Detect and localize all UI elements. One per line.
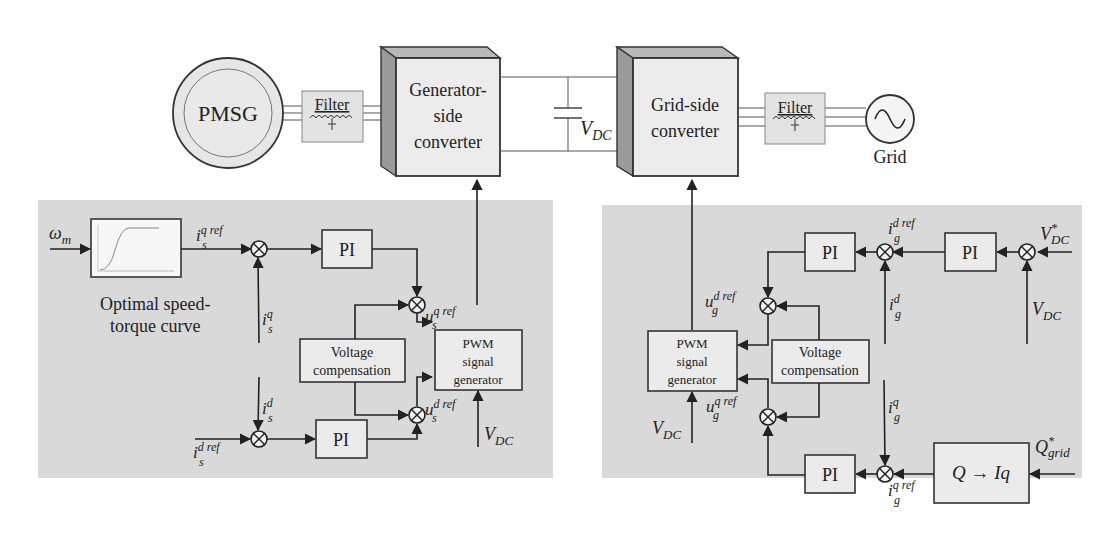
vc-grid-line2: compensation	[781, 363, 859, 378]
vc-gen-line2: compensation	[313, 363, 391, 378]
q-to-iq-block: Q → Iq	[934, 443, 1029, 503]
pi-q-label: PI	[339, 240, 355, 260]
isd-ref-sub: s	[199, 455, 204, 469]
gen-converter-label-3: converter	[414, 132, 482, 152]
summing-junction-isq	[251, 241, 267, 257]
gen-converter-label-2: side	[434, 106, 463, 126]
vc-gen-line1: Voltage	[331, 345, 374, 360]
pwm-generator-grid: PWM signal generator	[648, 331, 737, 391]
pi-controller-igq: PI	[805, 455, 855, 493]
grid-source: Grid	[866, 95, 914, 167]
pi-controller-isq: PI	[322, 230, 372, 268]
usd-ref-sub: s	[432, 411, 437, 425]
q-block-label: Q → Iq	[952, 462, 1011, 483]
pwm-gen-line3: generator	[453, 372, 503, 387]
summing-junction-usd	[409, 407, 425, 423]
pi-igq-label: PI	[822, 465, 838, 485]
igq-ref-sub: g	[894, 493, 900, 507]
pwm-generator-gen: PWM signal generator	[435, 330, 522, 390]
summing-junction-usq	[409, 297, 425, 313]
grid-label: Grid	[874, 147, 907, 167]
igd-ref-sub: g	[894, 231, 900, 245]
grid-side-converter: Grid-side converter	[617, 47, 738, 176]
pwm-gen-line2: signal	[462, 354, 493, 369]
ugd-ref-sub: g	[712, 303, 718, 317]
voltage-compensation-gen: Voltage compensation	[300, 339, 405, 382]
pi-vdc-label: PI	[962, 243, 978, 263]
pwm-grid-line1: PWM	[676, 336, 708, 351]
igq-sub: g	[894, 410, 900, 424]
voltage-compensation-grid: Voltage compensation	[772, 340, 869, 383]
pwm-grid-line2: signal	[676, 354, 707, 369]
summing-junction-igq	[877, 466, 893, 482]
gen-converter-label-1: Generator-	[409, 80, 487, 100]
pi-controller-igd: PI	[805, 233, 855, 271]
summing-junction-isd	[251, 431, 267, 447]
isq-ref-sub: s	[202, 238, 207, 252]
grid-converter-label-2: converter	[651, 121, 719, 141]
filter-left: Filter	[302, 91, 363, 142]
curve-caption-2: torque curve	[110, 316, 200, 336]
isq-sub: s	[268, 322, 273, 336]
pwm-gen-line1: PWM	[462, 336, 494, 351]
dc-link-capacitor: VDC	[500, 77, 620, 151]
summing-junction-vdc	[1019, 244, 1035, 260]
ugq-ref-sub: g	[713, 408, 719, 422]
igd-sub: g	[895, 307, 901, 321]
pi-igd-label: PI	[822, 243, 838, 263]
generator-side-converter: Generator- side converter	[381, 47, 500, 176]
filter-left-label: Filter	[315, 96, 350, 113]
igq-ref-label: iq ref	[888, 478, 916, 500]
summing-junction-igd	[877, 244, 893, 260]
filter-right: Filter	[765, 93, 825, 144]
pi-controller-vdc: PI	[945, 233, 996, 271]
pmsg-label: PMSG	[198, 101, 258, 126]
vdc-label: VDC	[580, 117, 612, 143]
pi-d-label: PI	[333, 430, 349, 450]
curve-caption-1: Optimal speed-	[100, 294, 210, 314]
pi-controller-isd: PI	[316, 420, 367, 458]
speed-torque-curve-block	[91, 219, 181, 277]
isd-sub: s	[268, 411, 273, 425]
summing-junction-ugd	[760, 298, 776, 314]
summing-junction-ugq	[760, 409, 776, 425]
grid-converter-label-1: Grid-side	[651, 95, 719, 115]
vc-grid-line1: Voltage	[799, 345, 842, 360]
pwm-grid-line3: generator	[667, 372, 717, 387]
pmsg-generator: PMSG	[173, 58, 283, 168]
filter-right-label: Filter	[778, 99, 813, 116]
